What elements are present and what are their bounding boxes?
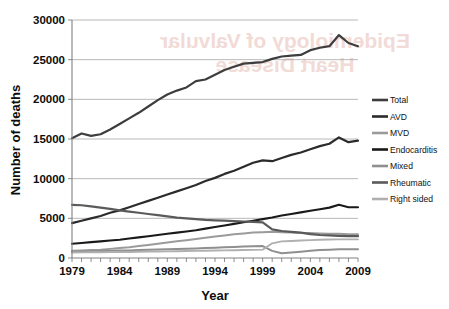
x-tick-label: 1999 — [250, 265, 276, 277]
y-tick-label: 30000 — [33, 14, 65, 26]
y-tick-label: 10000 — [33, 173, 65, 185]
x-tick-label: 2009 — [345, 265, 371, 277]
line-chart: Epidemiology of Valvular Heart Disease 0… — [0, 0, 449, 309]
legend-label-rheumatic: Rheumatic — [390, 178, 432, 188]
x-tick-label: 1984 — [107, 265, 133, 277]
legend-label-mixed: Mixed — [390, 161, 413, 171]
legend-label-mvd: MVD — [390, 128, 409, 138]
x-tick-label: 2004 — [298, 265, 324, 277]
x-axis-title: Year — [201, 288, 228, 303]
y-tick-label: 20000 — [33, 93, 65, 105]
legend-label-total: Total — [390, 95, 408, 105]
y-tick-label: 25000 — [33, 54, 65, 66]
legend-label-right-sided: Right sided — [390, 194, 433, 204]
legend-label-endocarditis: Endocarditis — [390, 145, 437, 155]
x-tick-label: 1979 — [59, 265, 85, 277]
watermark-line-1: Epidemiology of Valvular — [160, 29, 410, 52]
legend-label-avd: AVD — [390, 112, 407, 122]
y-tick-label: 0 — [59, 252, 65, 264]
x-tick-label: 1994 — [202, 265, 228, 277]
chart-figure: Epidemiology of Valvular Heart Disease 0… — [0, 0, 449, 309]
x-tick-label: 1989 — [155, 265, 181, 277]
y-axis-title: Number of deaths — [8, 85, 23, 196]
y-tick-label: 5000 — [39, 212, 65, 224]
y-tick-label: 15000 — [33, 133, 65, 145]
